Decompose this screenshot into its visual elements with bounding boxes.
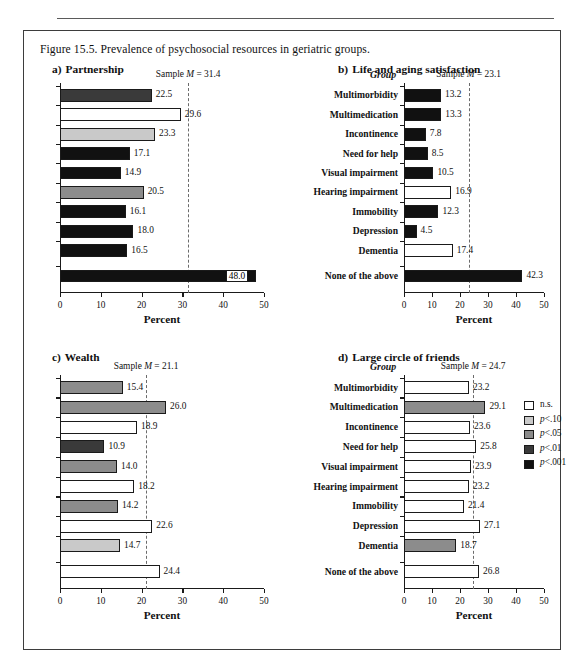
group-label: Need for help <box>343 148 398 159</box>
y-tick <box>56 86 60 87</box>
bar <box>60 401 166 414</box>
plot-area-d: 0102030405023.229.123.625.823.923.221.42… <box>404 375 544 589</box>
x-tick-label: 10 <box>427 300 436 310</box>
y-tick <box>400 378 404 379</box>
bar-value-label: 22.6 <box>156 520 172 530</box>
y-tick <box>56 417 60 418</box>
x-tick <box>432 293 433 297</box>
bar <box>404 167 433 180</box>
bar-value-label: 18.9 <box>141 421 157 431</box>
x-tick <box>544 293 545 297</box>
bar-value-label: 25.8 <box>480 441 496 451</box>
legend-swatch <box>524 460 534 469</box>
legend-swatch <box>524 430 534 439</box>
bar <box>404 147 428 160</box>
x-tick-label: 30 <box>178 596 187 606</box>
panel-title-text: Partnership <box>66 63 124 75</box>
x-tick-label: 20 <box>137 300 146 310</box>
x-tick-label: 20 <box>137 596 146 606</box>
y-tick <box>400 536 404 537</box>
y-tick <box>56 378 60 379</box>
y-tick <box>400 437 404 438</box>
bar <box>404 460 471 473</box>
bar-value-label: 48.0 <box>226 270 248 282</box>
panel-a: a)Partnership0102030405022.529.623.317.1… <box>38 61 296 339</box>
panel-b: b)Life and aging satisfaction01020304050… <box>296 61 554 339</box>
x-tick <box>404 589 405 593</box>
x-tick <box>264 589 265 593</box>
bar-value-label: 29.6 <box>185 109 201 119</box>
sample-mean-label: Sample M = 31.4 <box>156 69 221 79</box>
x-tick-label: 30 <box>178 300 187 310</box>
y-tick <box>400 397 404 398</box>
bar <box>404 539 456 552</box>
x-tick <box>544 589 545 593</box>
bar <box>60 167 121 180</box>
bar-value-label: 26.0 <box>170 401 186 411</box>
bar <box>60 108 181 121</box>
y-tick <box>56 562 60 563</box>
group-label: None of the above <box>325 270 398 281</box>
bar-value-label: 8.5 <box>432 148 444 158</box>
bar-value-label: 13.2 <box>445 89 461 99</box>
y-tick <box>56 437 60 438</box>
y-tick <box>400 222 404 223</box>
group-label: Multimedication <box>330 109 398 120</box>
bar <box>404 186 451 199</box>
group-label: Immobility <box>352 206 398 217</box>
bar-value-label: 18.7 <box>460 540 476 550</box>
y-tick <box>400 163 404 164</box>
bar-value-label: 10.9 <box>108 441 124 451</box>
group-label: Visual impairment <box>321 167 398 178</box>
panel-letter: b) <box>338 63 348 75</box>
x-tick-label: 0 <box>402 300 407 310</box>
bar-value-label: 16.9 <box>455 186 471 196</box>
panel-title-text: Wealth <box>65 351 100 363</box>
bar <box>60 225 133 238</box>
y-tick <box>400 105 404 106</box>
bar-value-label: 14.0 <box>121 461 137 471</box>
y-tick <box>56 516 60 517</box>
y-tick <box>56 536 60 537</box>
bar <box>60 128 155 141</box>
x-tick <box>516 293 517 297</box>
y-tick <box>400 457 404 458</box>
y-tick <box>400 125 404 126</box>
x-tick-label: 30 <box>483 300 492 310</box>
x-tick-label: 50 <box>259 300 268 310</box>
panel-d: d)Large circle of friends0102030405023.2… <box>296 349 554 637</box>
x-tick-label: 20 <box>455 596 464 606</box>
bar <box>404 108 441 121</box>
bar-value-label: 12.3 <box>442 206 458 216</box>
plot-area-b: 0102030405013.213.37.88.510.516.912.34.5… <box>404 83 544 293</box>
x-tick-label: 40 <box>219 596 228 606</box>
y-tick <box>56 496 60 497</box>
bar <box>404 440 476 453</box>
bar-value-label: 14.2 <box>122 500 138 510</box>
bar-value-label: 14.7 <box>124 540 140 550</box>
bar-value-label: 23.9 <box>475 461 491 471</box>
legend-label: p<.05 <box>540 428 562 438</box>
x-tick-label: 30 <box>483 596 492 606</box>
group-label: Dementia <box>359 245 398 256</box>
bar-value-label: 17.4 <box>457 245 473 255</box>
figure-caption: Figure 15.5. Prevalence of psychosocial … <box>40 43 370 56</box>
x-tick-label: 0 <box>402 596 407 606</box>
bar <box>404 480 469 493</box>
bar <box>60 539 120 552</box>
bar-value-label: 18.0 <box>137 225 153 235</box>
group-label: Hearing impairment <box>314 481 398 492</box>
bar <box>60 460 117 473</box>
group-label: None of the above <box>325 566 398 577</box>
bar <box>60 440 104 453</box>
x-tick-label: 10 <box>96 596 105 606</box>
x-tick <box>101 293 102 297</box>
x-tick <box>223 589 224 593</box>
x-tick-label: 0 <box>58 300 63 310</box>
figure-container: Figure 15.5. Prevalence of psychosocial … <box>23 30 561 650</box>
bar <box>404 225 417 238</box>
y-tick <box>400 516 404 517</box>
group-label: Multimorbidity <box>334 382 398 393</box>
y-tick <box>400 144 404 145</box>
bar-value-label: 15.4 <box>127 382 143 392</box>
